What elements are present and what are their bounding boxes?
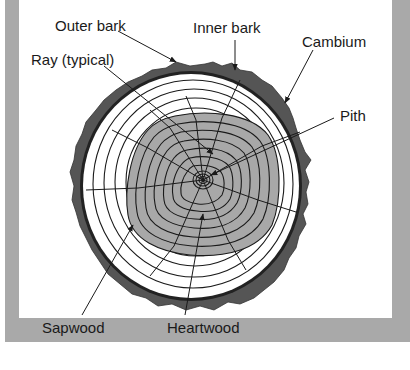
label-ray: Ray (typical) <box>31 52 114 67</box>
label-inner-bark: Inner bark <box>193 20 261 35</box>
outer-bark-leader <box>118 31 176 62</box>
label-cambium: Cambium <box>302 34 366 49</box>
label-outer-bark: Outer bark <box>55 18 126 33</box>
cambium-leader <box>285 50 313 103</box>
label-pith: Pith <box>340 108 366 123</box>
label-heartwood: Heartwood <box>167 320 240 335</box>
label-sapwood: Sapwood <box>42 320 105 335</box>
heartwood-region <box>127 113 279 255</box>
